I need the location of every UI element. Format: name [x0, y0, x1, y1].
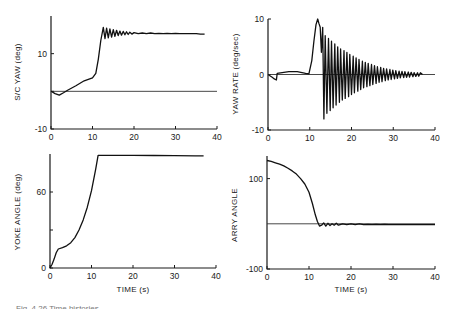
x-tick-label: 40 — [212, 132, 222, 142]
x-tick-label: 30 — [388, 272, 398, 282]
y-tick-label: -10 — [252, 125, 265, 135]
y-tick-label: 0 — [259, 70, 264, 80]
x-tick-label: 30 — [170, 271, 180, 281]
data-series-line — [51, 27, 205, 95]
x-tick-label: 10 — [88, 132, 98, 142]
x-tick-label: 30 — [389, 133, 399, 143]
y-tick-label: 0 — [41, 263, 46, 273]
chart-yaw-rate: 010203040100-10YAW RATE (deg/sec) — [231, 14, 440, 143]
x-axis-label: TIME (s) — [334, 285, 367, 294]
x-tick-label: 40 — [211, 271, 221, 281]
chart-sc-yaw: 01020304010-10S/C YAW (deg) — [13, 16, 222, 142]
data-series-line — [268, 19, 423, 119]
y-tick-label: 10 — [38, 49, 48, 59]
chart-yoke-angle: 010203040600YOKE ANGLE (deg)TIME (s) — [13, 154, 221, 294]
y-axis-label: ARRY ANGLE — [230, 188, 239, 242]
axes — [50, 154, 216, 268]
x-tick-label: 20 — [346, 272, 356, 282]
x-tick-label: 0 — [48, 271, 53, 281]
figure: 01020304010-10S/C YAW (deg) 010203040100… — [0, 0, 453, 309]
y-tick-label: 60 — [37, 187, 47, 197]
y-axis-label: YAW RATE (deg/sec) — [231, 33, 240, 114]
y-axis-label: S/C YAW (deg) — [13, 43, 22, 101]
x-tick-label: 30 — [171, 132, 181, 142]
y-axis-label: YOKE ANGLE (deg) — [13, 174, 22, 251]
x-tick-label: 20 — [128, 271, 138, 281]
y-tick-label: 100 — [249, 174, 263, 184]
y-tick-label: -10 — [35, 124, 48, 134]
x-tick-label: 20 — [129, 132, 139, 142]
x-tick-label: 10 — [305, 133, 315, 143]
data-series-line — [50, 155, 204, 268]
x-tick-label: 0 — [265, 272, 270, 282]
y-tick-label: -100 — [246, 264, 263, 274]
x-tick-label: 40 — [430, 272, 440, 282]
x-axis-label: TIME (s) — [116, 285, 149, 294]
x-tick-label: 10 — [304, 272, 314, 282]
x-tick-label: 0 — [266, 133, 271, 143]
chart-arry-angle: 010203040100-100ARRY ANGLETIME (s) — [230, 156, 440, 294]
x-tick-label: 10 — [87, 271, 97, 281]
axes — [267, 156, 435, 269]
data-series-line — [267, 161, 435, 227]
figure-caption: Fig. 4.26 Time histories ... — [16, 303, 108, 309]
x-tick-label: 40 — [430, 133, 440, 143]
x-tick-label: 0 — [49, 132, 54, 142]
x-tick-label: 20 — [347, 133, 357, 143]
y-tick-label: 10 — [255, 14, 265, 24]
